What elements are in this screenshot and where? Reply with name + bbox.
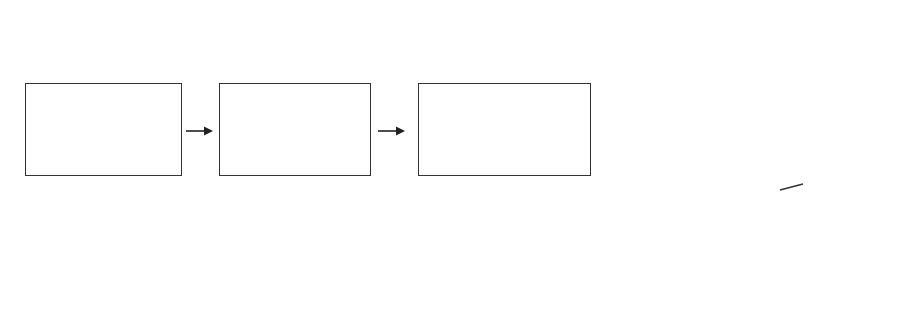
step-box-3 [418,83,591,176]
step-box-2 [219,83,371,176]
step-box-1 [25,83,182,176]
precipitate-pointer [780,184,803,190]
